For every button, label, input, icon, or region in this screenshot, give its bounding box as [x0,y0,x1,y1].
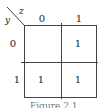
cell-1-1: 1 [72,75,84,85]
row-header-1: 1 [11,75,23,85]
col-header-0: 0 [36,14,48,24]
horizontal-divider [21,62,98,63]
cell-1-0: 1 [35,75,47,85]
cell-0-1: 1 [72,39,84,49]
vertical-divider [61,23,62,99]
karnaugh-map-grid: 1 1 1 [24,25,97,98]
row-variable-label: y [5,16,10,25]
figure-caption: Figure 2.1 [30,101,77,108]
col-header-1: 1 [73,14,85,24]
row-header-0: 0 [7,39,19,49]
col-variable-label: z [19,7,24,16]
